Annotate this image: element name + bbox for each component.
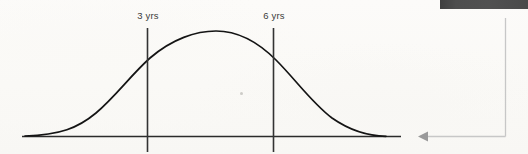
scanned-figure-page: 3 yrs 6 yrs <box>0 0 528 154</box>
arrow-left-icon <box>418 132 428 142</box>
marker-label-6yrs: 6 yrs <box>263 10 285 21</box>
bracket-arrow-svg <box>410 0 528 154</box>
bell-curve-figure <box>0 0 420 154</box>
right-annotation-group <box>410 0 528 154</box>
distribution-curve <box>25 31 386 136</box>
marker-label-3yrs: 3 yrs <box>137 10 159 21</box>
